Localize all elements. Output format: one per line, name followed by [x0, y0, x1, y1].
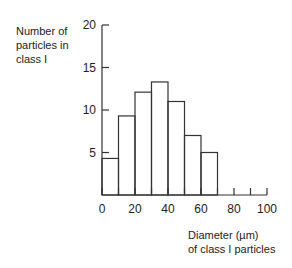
histogram-bar [201, 153, 218, 196]
histogram-bar [119, 116, 136, 195]
histogram-bar [152, 82, 169, 195]
y-tick-label: 5 [89, 146, 96, 160]
y-tick-label: 20 [83, 18, 97, 32]
x-tick-label: 80 [227, 202, 241, 216]
histogram-bar [168, 102, 185, 196]
x-tick-label: 0 [99, 202, 106, 216]
histogram-bar [185, 136, 202, 196]
x-tick-label: 100 [257, 202, 277, 216]
histogram-bar [102, 158, 119, 195]
x-tick-label: 60 [194, 202, 208, 216]
y-tick-label: 15 [83, 61, 97, 75]
histogram-chart: 5101520020406080100 [0, 0, 292, 268]
x-tick-label: 40 [161, 202, 175, 216]
histogram-bar [135, 92, 152, 195]
y-tick-label: 10 [83, 103, 97, 117]
x-tick-label: 20 [128, 202, 142, 216]
